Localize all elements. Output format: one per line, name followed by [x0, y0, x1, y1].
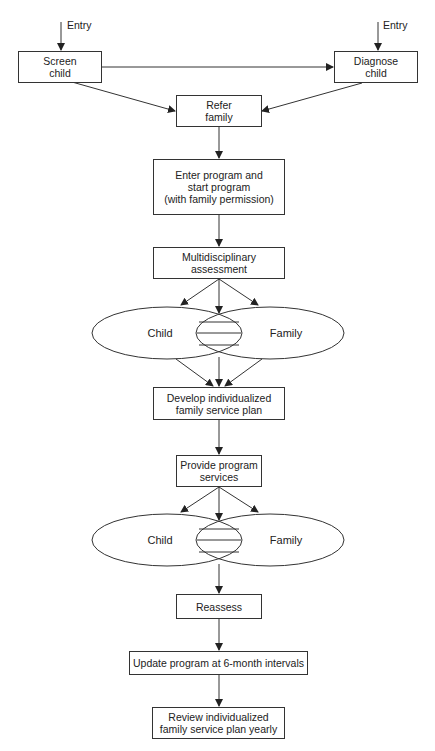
venn2-child-label: Child: [147, 534, 172, 546]
entry-label-right: Entry: [383, 19, 408, 31]
node-screen-child-label: Screen child: [43, 55, 76, 79]
node-update-program-label: Update program at 6-month intervals: [133, 657, 304, 669]
node-multidisciplinary-label: Multidisciplinary assessment: [182, 251, 256, 275]
venn1-family-label: Family: [270, 327, 302, 339]
node-multidisciplinary-assessment: Multidisciplinary assessment: [153, 247, 285, 279]
node-develop-ifsp: Develop individualized family service pl…: [153, 387, 285, 420]
node-diagnose-child-label: Diagnose child: [354, 55, 398, 79]
venn1-child-label: Child: [147, 327, 172, 339]
node-refer-family-label: Refer family: [205, 99, 232, 123]
node-review-ifsp: Review individualized family service pla…: [152, 707, 285, 739]
node-enter-program: Enter program and start program (with fa…: [153, 159, 285, 215]
node-provide-services: Provide program services: [176, 455, 262, 487]
node-update-program: Update program at 6-month intervals: [129, 651, 308, 675]
node-screen-child: Screen child: [18, 51, 102, 83]
node-develop-ifsp-label: Develop individualized family service pl…: [167, 392, 271, 416]
entry-label-left: Entry: [67, 19, 92, 31]
node-reassess-label: Reassess: [196, 601, 242, 613]
node-review-ifsp-label: Review individualized family service pla…: [160, 711, 277, 735]
node-provide-services-label: Provide program services: [180, 459, 258, 483]
node-refer-family: Refer family: [176, 95, 262, 127]
node-enter-program-label: Enter program and start program (with fa…: [164, 169, 274, 205]
venn2-family-label: Family: [270, 534, 302, 546]
node-reassess: Reassess: [176, 594, 262, 619]
node-diagnose-child: Diagnose child: [334, 51, 418, 83]
